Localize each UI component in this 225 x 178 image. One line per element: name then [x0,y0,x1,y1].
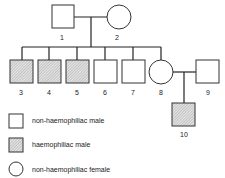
legend-circle-icon [9,162,23,176]
label-1: 1 [60,34,64,41]
individual-2-female [107,5,131,29]
individual-9-male [196,60,219,83]
label-5: 5 [75,89,79,96]
individual-4-haemophiliac-male [38,60,61,83]
individual-7-male [122,60,145,83]
label-9: 9 [206,89,210,96]
label-2: 2 [115,34,119,41]
label-8: 8 [159,89,163,96]
individual-8-female [149,60,173,84]
pedigree-diagram: 1 2 3 4 5 6 7 8 9 10 non-haemophiliac ma… [0,0,225,178]
label-3: 3 [19,89,23,96]
individual-10-haemophiliac-male [172,103,195,126]
label-10: 10 [180,131,188,138]
legend-label-haemophiliac-male: haemophiliac male [32,141,90,149]
individual-6-male [94,60,117,83]
legend-label-non-haemophiliac-female: non-haemophiliac female [32,166,110,174]
legend-square-icon [9,114,23,128]
individual-1-male [52,5,74,28]
individual-3-haemophiliac-male [10,60,33,83]
legend: non-haemophiliac male haemophiliac male … [9,114,110,176]
legend-hatched-square-icon [9,138,23,152]
individual-5-haemophiliac-male [66,60,89,83]
label-4: 4 [47,89,51,96]
label-6: 6 [103,89,107,96]
label-7: 7 [131,89,135,96]
legend-label-non-haemophiliac-male: non-haemophiliac male [32,117,104,125]
